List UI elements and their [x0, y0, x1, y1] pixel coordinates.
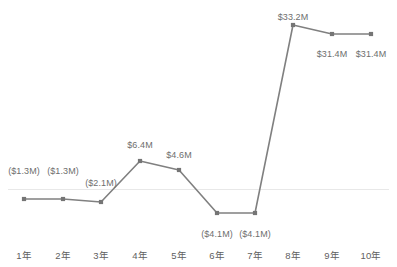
data-point-marker-9	[330, 32, 334, 36]
data-point-marker-3	[99, 200, 103, 204]
data-point-marker-5	[177, 168, 181, 172]
data-point-marker-10	[369, 32, 373, 36]
data-point-marker-2	[61, 197, 65, 201]
data-point-marker-1	[22, 197, 26, 201]
data-point-marker-7	[253, 211, 257, 215]
chart-plot-area	[0, 0, 397, 267]
data-point-marker-4	[138, 159, 142, 163]
series-marker-group	[22, 23, 373, 215]
series-line	[24, 25, 371, 213]
line-chart: ($1.3M) ($1.3M) ($2.1M) $6.4M $4.6M ($4.…	[0, 0, 397, 267]
data-point-marker-6	[215, 211, 219, 215]
data-point-marker-8	[291, 23, 295, 27]
